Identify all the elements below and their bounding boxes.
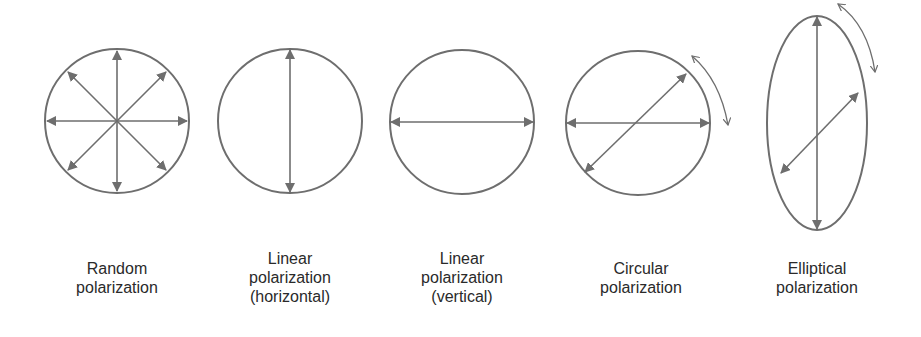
elliptical-polarization-figure	[767, 4, 875, 230]
label-line: Linear	[205, 249, 375, 268]
label-line: polarization	[32, 278, 202, 297]
label-line: (horizontal)	[205, 287, 375, 306]
label-linear-vertical: Linear polarization (vertical)	[377, 249, 547, 306]
label-line: Elliptical	[732, 259, 902, 278]
label-line: Random	[32, 259, 202, 278]
label-line: polarization	[732, 278, 902, 297]
label-line: polarization	[377, 268, 547, 287]
label-line: polarization	[556, 278, 726, 297]
label-line: Circular	[556, 259, 726, 278]
label-linear-horizontal: Linear polarization (horizontal)	[205, 249, 375, 306]
random-polarization-figure	[45, 49, 189, 193]
label-line: polarization	[205, 268, 375, 287]
linear-vertical-figure	[390, 50, 534, 194]
linear-horizontal-figure	[218, 49, 362, 193]
label-random-polarization: Random polarization	[32, 259, 202, 297]
label-line: (vertical)	[377, 287, 547, 306]
label-elliptical-polarization: Elliptical polarization	[732, 259, 902, 297]
circular-polarization-figure	[566, 51, 728, 195]
label-line: Linear	[377, 249, 547, 268]
rotation-arrow-icon	[838, 4, 875, 72]
arrow-diagonal	[781, 93, 858, 173]
label-circular-polarization: Circular polarization	[556, 259, 726, 297]
